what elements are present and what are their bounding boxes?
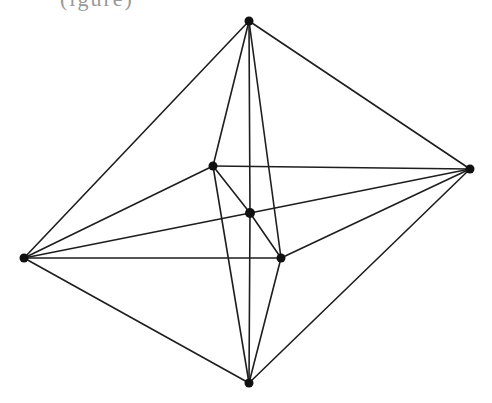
edge-inner-upper-left-center — [213, 166, 250, 213]
edge-bottom-right — [249, 169, 470, 383]
edge-bottom-left — [24, 258, 249, 383]
edge-right-inner-lower-right — [281, 169, 470, 258]
vertex-inner-lower-right — [277, 254, 286, 263]
graph-diagram — [0, 0, 492, 403]
edge-bottom-inner-lower-right — [249, 258, 281, 383]
vertex-left — [20, 254, 29, 263]
edge-right-center — [250, 169, 470, 213]
vertex-right — [466, 165, 475, 174]
edge-left-center — [24, 213, 250, 258]
edge-bottom-inner-upper-left — [213, 166, 249, 383]
edge-top-left — [24, 21, 249, 258]
edge-top-inner-upper-left — [213, 21, 249, 166]
graph-vertices — [20, 17, 475, 388]
edge-top-inner-lower-right — [249, 21, 281, 258]
edge-right-inner-upper-left — [213, 166, 470, 169]
edge-top-center — [249, 21, 250, 213]
vertex-top — [245, 17, 254, 26]
edge-left-inner-upper-left — [24, 166, 213, 258]
vertex-inner-upper-left — [209, 162, 218, 171]
graph-edges — [24, 21, 470, 383]
edge-top-right — [249, 21, 470, 169]
vertex-bottom — [245, 379, 254, 388]
edge-bottom-center — [249, 213, 250, 383]
vertex-center — [245, 208, 255, 218]
